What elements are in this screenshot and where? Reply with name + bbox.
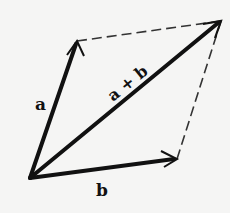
diagram-svg: a b a + b: [0, 0, 230, 213]
vector-addition-diagram: a b a + b: [0, 0, 230, 213]
vector-b: [30, 151, 177, 178]
dashed-edge-b-to-sum: [177, 21, 221, 159]
label-a: a: [35, 94, 46, 114]
label-b: b: [96, 180, 108, 200]
